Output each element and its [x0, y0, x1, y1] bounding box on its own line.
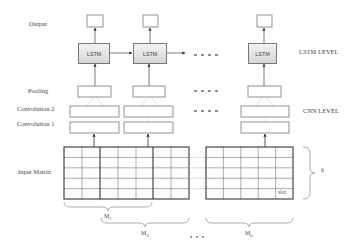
- conv1-box-2: [124, 122, 173, 133]
- column-2: [124, 15, 173, 147]
- pooling-box-2: [133, 86, 165, 97]
- lstm-label: LSTM: [143, 51, 158, 57]
- brace-m1: [64, 202, 152, 211]
- lstm-label: LSTM: [255, 51, 270, 57]
- convolution2-label: Convolution 2: [17, 105, 54, 112]
- brace-mn: [206, 218, 293, 227]
- pooling-label: Pooling: [28, 87, 48, 94]
- conv2-box-n: [241, 106, 289, 117]
- pooling-box-n: [248, 86, 281, 97]
- matrix-gap-lines: [189, 157, 206, 188]
- height-label: h: [321, 167, 324, 173]
- lstm-cell-1: LSTM: [78, 43, 110, 64]
- lstm-level-label: LSTM LEVEL: [299, 48, 339, 55]
- lstm-label: LSTM: [87, 51, 102, 57]
- conv1-box-n: [241, 122, 289, 133]
- column-1: [70, 15, 119, 147]
- dashed-line: [152, 98, 158, 106]
- dashed-line: [97, 98, 103, 106]
- dashed-line: [142, 98, 147, 106]
- input-matrix-left: [64, 147, 189, 199]
- dashed-line: [267, 98, 273, 106]
- segment-m2-label: M2: [141, 230, 149, 238]
- output-box-2: [143, 15, 158, 27]
- segment-mn-label: Mn: [245, 230, 253, 238]
- conv2-box-2: [124, 106, 173, 117]
- height-brace: [303, 147, 315, 199]
- pooling-box-1: [78, 86, 111, 97]
- input-matrix-label: Input Matrix: [18, 168, 51, 175]
- ellipsis-dashes: [194, 55, 218, 111]
- column-n: [241, 15, 289, 147]
- lstm-cell-n: LSTM: [248, 43, 277, 64]
- dashed-line: [87, 98, 93, 106]
- slot-label: slot: [278, 189, 286, 195]
- conv2-box-1: [70, 106, 119, 117]
- output-box-n: [257, 15, 272, 27]
- output-box-1: [87, 15, 103, 27]
- output-label: Output: [29, 20, 47, 27]
- cnn-level-label: CNN LEVEL: [303, 107, 339, 114]
- segment-m1-label: M1: [104, 213, 112, 221]
- lstm-cell-2: LSTM: [133, 43, 167, 64]
- dashed-line: [256, 98, 262, 106]
- convolution1-label: Convolution 1: [17, 120, 54, 127]
- conv1-box-1: [70, 122, 119, 133]
- brace-m2: [101, 218, 189, 227]
